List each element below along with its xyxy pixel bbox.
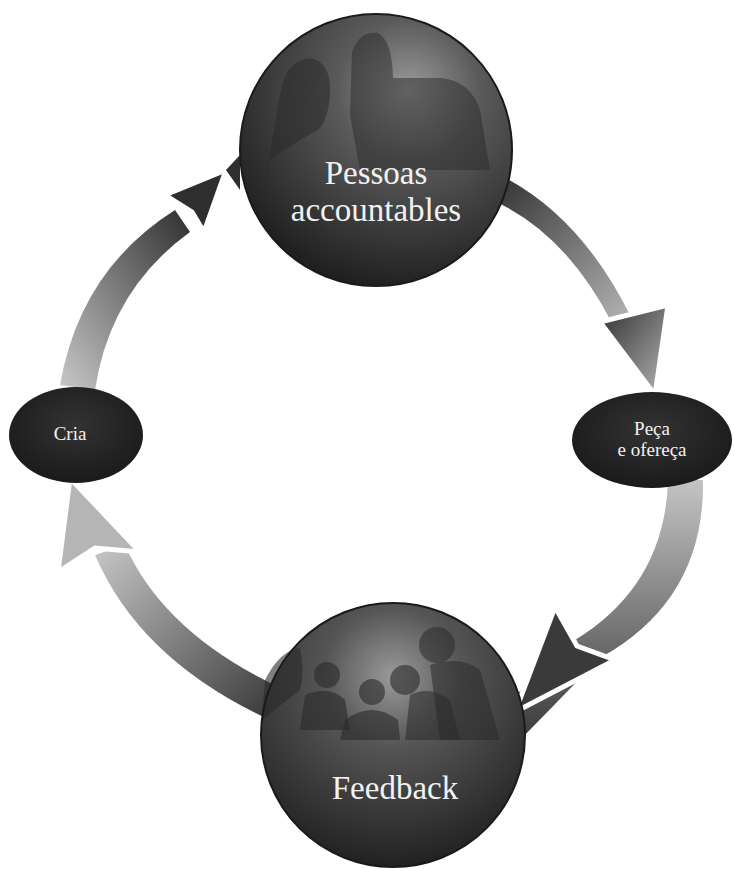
arrow-top-to-right: [492, 175, 668, 395]
node-cria: [9, 387, 143, 483]
node-pessoas-accountables: [240, 14, 512, 286]
node-feedback: [261, 603, 525, 867]
cycle-diagram: [0, 0, 734, 869]
node-peca-e-ofereca: [572, 392, 732, 488]
arrow-bottom-to-left: [58, 478, 285, 720]
arrow-right-to-bottom: [505, 480, 703, 740]
arrow-left-to-top: [60, 155, 240, 390]
